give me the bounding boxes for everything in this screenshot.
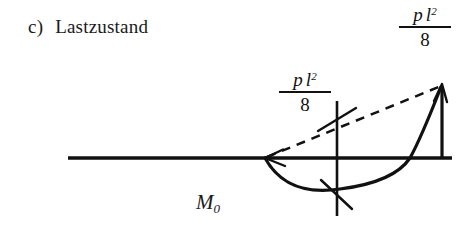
support-moment-annotation: pl2 8 (399, 5, 451, 49)
caption-tag: c) (28, 16, 43, 37)
fraction-denominator: 8 (399, 29, 451, 49)
exponent-two: 2 (311, 70, 317, 82)
exponent-two: 2 (431, 5, 437, 17)
fraction-numerator: pl2 (399, 5, 451, 25)
fraction-bar (399, 26, 451, 28)
fraction-bar (279, 91, 331, 93)
fraction-numerator: pl2 (279, 70, 331, 90)
symbol-p: p (293, 69, 303, 90)
label-symbol: M (196, 190, 214, 214)
symbol-p: p (413, 4, 423, 25)
moment-diagram-label: M0 (196, 190, 220, 217)
label-subscript: 0 (214, 201, 221, 216)
fraction-denominator: 8 (279, 94, 331, 114)
midspan-moment-annotation: pl2 8 (279, 70, 331, 114)
caption-text: Lastzustand (55, 16, 148, 37)
figure-caption: c)Lastzustand (28, 16, 148, 38)
